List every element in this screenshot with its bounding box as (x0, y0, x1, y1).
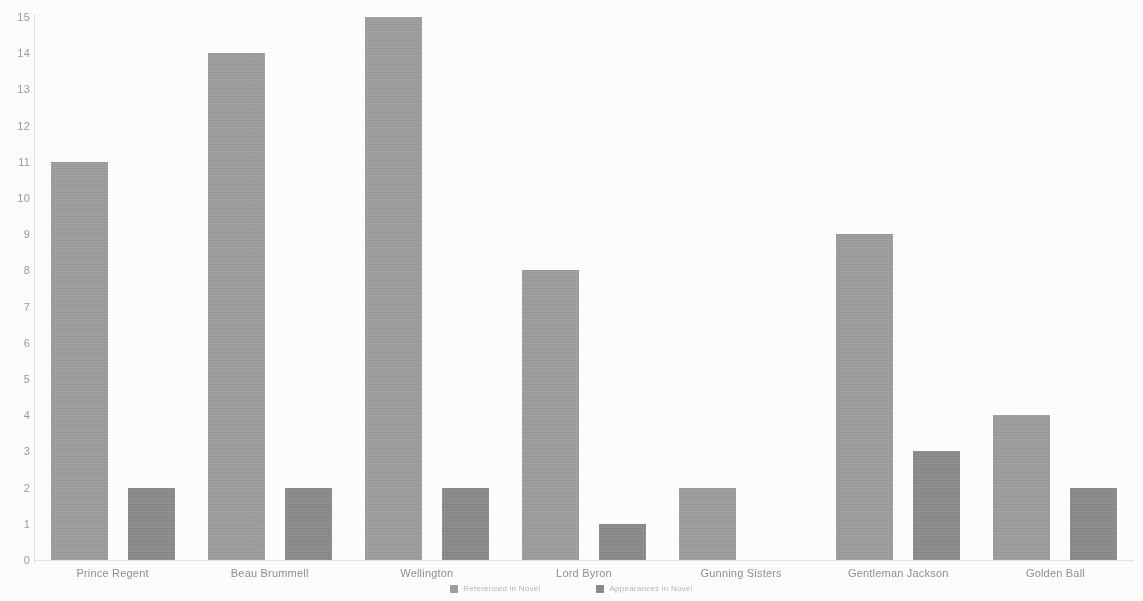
bar-group (51, 17, 175, 560)
x-axis-line (34, 560, 1134, 561)
legend-item[interactable]: Referenced in Novel (450, 584, 540, 593)
plot-area (34, 17, 1134, 560)
legend-label: Appearances in Novel (609, 584, 692, 593)
bar-referenced[interactable] (208, 53, 265, 560)
bar-referenced[interactable] (51, 162, 108, 560)
y-axis-tick-label: 0 (4, 555, 30, 566)
y-axis-tick-label: 11 (4, 156, 30, 167)
x-axis-label: Golden Ball (933, 567, 1143, 580)
bar-chart: 0123456789101112131415 Prince RegentBeau… (0, 0, 1143, 601)
y-axis-tick-label: 14 (4, 48, 30, 59)
bar-appearances[interactable] (285, 488, 332, 560)
y-axis-tick-label: 1 (4, 518, 30, 529)
y-axis-tick-label: 12 (4, 120, 30, 131)
bar-referenced[interactable] (836, 234, 893, 560)
bar-referenced[interactable] (679, 488, 736, 560)
chart-legend: Referenced in NovelAppearances in Novel (0, 584, 1143, 593)
y-axis-tick-label: 4 (4, 410, 30, 421)
legend-item[interactable]: Appearances in Novel (596, 584, 692, 593)
bar-appearances[interactable] (913, 451, 960, 560)
legend-swatch-icon (450, 585, 458, 593)
bar-referenced[interactable] (993, 415, 1050, 560)
bar-appearances[interactable] (442, 488, 489, 560)
bar-group (993, 17, 1117, 560)
y-axis-tick-label: 3 (4, 446, 30, 457)
bar-referenced[interactable] (365, 17, 422, 560)
bar-referenced[interactable] (522, 270, 579, 560)
legend-label: Referenced in Novel (463, 584, 540, 593)
y-axis-tick-label: 5 (4, 374, 30, 385)
bar-group (836, 17, 960, 560)
y-axis-tick-labels: 0123456789101112131415 (0, 0, 30, 601)
bar-appearances[interactable] (128, 488, 175, 560)
y-axis-tick-label: 8 (4, 265, 30, 276)
y-axis-tick-label: 10 (4, 193, 30, 204)
y-axis-tick-label: 6 (4, 337, 30, 348)
y-axis-tick-label: 9 (4, 229, 30, 240)
bar-appearances[interactable] (599, 524, 646, 560)
y-axis-tick-label: 15 (4, 12, 30, 23)
y-axis-tick-label: 2 (4, 482, 30, 493)
y-axis-tick-label: 7 (4, 301, 30, 312)
bar-group (679, 17, 803, 560)
bar-group (522, 17, 646, 560)
legend-swatch-icon (596, 585, 604, 593)
bar-appearances[interactable] (1070, 488, 1117, 560)
y-axis-tick-label: 13 (4, 84, 30, 95)
bar-group (208, 17, 332, 560)
bar-group (365, 17, 489, 560)
